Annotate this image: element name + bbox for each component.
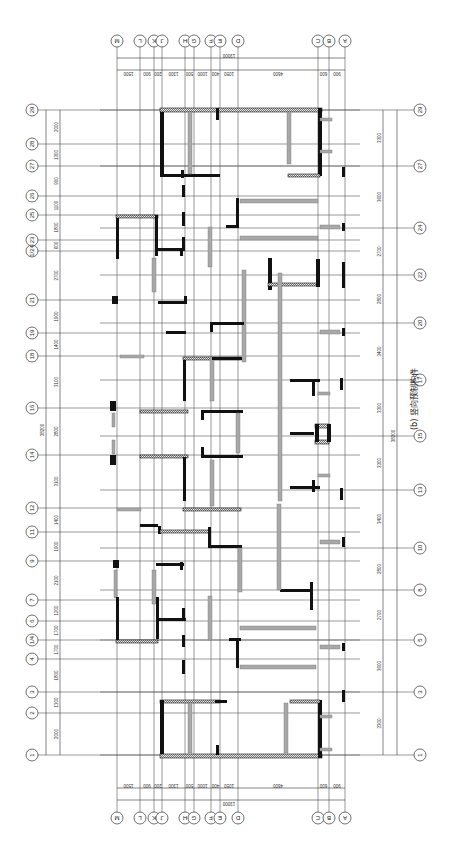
row-axis-bubble-left-label: 12 (29, 504, 35, 511)
cast-in-place-wall (182, 660, 185, 674)
right-dimension-label: 3300 (377, 718, 382, 729)
segment-dimension-label: 400 (211, 71, 219, 76)
cast-in-place-wall (315, 424, 319, 442)
floor-plan-drawing: 1300015009002001300500100040010504600600… (0, 0, 449, 858)
row-axis-bubble-right-label: 13 (417, 486, 423, 493)
row-axis-bubble-right-label: 15 (417, 432, 423, 439)
segment-dimension-label: 1050 (223, 71, 234, 76)
cast-in-place-wall (110, 455, 116, 465)
hatched-wall (116, 215, 158, 218)
column-axis-bubble-top-label: G (191, 38, 196, 44)
column-axis-bubble-top-label: J (161, 38, 164, 44)
cast-in-place-wall (236, 198, 239, 228)
cast-in-place-wall (182, 608, 185, 620)
precast-wall-component (320, 645, 340, 649)
segment-dimension-label: 1000 (197, 71, 208, 76)
total-dimension-label: 13000 (222, 53, 235, 58)
precast-wall-component (120, 355, 144, 358)
precast-wall-component (242, 270, 246, 362)
precast-wall-component (210, 357, 214, 401)
column-axis-bubble-bottom-label: K (152, 815, 156, 821)
right-dimension-label: 3600 (377, 660, 382, 671)
row-axis-bubble-right-label: 24 (417, 224, 423, 231)
cast-in-place-wall (342, 643, 345, 651)
precast-wall-component (320, 150, 332, 153)
cast-in-place-wall (229, 638, 241, 641)
left-dimension-label: 1700 (54, 644, 59, 655)
precast-wall-component (112, 440, 115, 454)
hatched-wall (288, 174, 320, 177)
segment-dimension-label: 4600 (272, 783, 283, 788)
structural-walls (110, 108, 345, 758)
row-axis-bubble-left-label: 21 (29, 296, 35, 303)
left-dimension-label: 1100 (54, 200, 59, 210)
row-axis-bubble-right-label: 27 (417, 162, 423, 169)
precast-wall-component (320, 540, 340, 544)
column-axis-bubble-top-label: H (183, 38, 187, 44)
hatched-wall (160, 754, 322, 758)
column-axis-bubble-top-label: A (343, 38, 347, 44)
cast-in-place-wall (181, 170, 184, 178)
row-axis-bubble-right-label: 20 (417, 319, 423, 326)
segment-dimension-label: 1050 (223, 783, 234, 788)
left-dimension-label: 1300 (54, 149, 59, 160)
column-axis-bubble-top-label: C (315, 38, 320, 44)
cast-in-place-wall (116, 597, 119, 642)
column-axis-bubble-bottom-label: F (209, 815, 213, 821)
column-axis-bubble-bottom-label: A (343, 815, 347, 821)
cast-in-place-wall (342, 262, 345, 288)
left-dimension-label: 1300 (54, 697, 59, 708)
precast-wall-component (320, 330, 340, 334)
precast-wall-component (112, 413, 115, 427)
precast-wall-component (320, 748, 332, 751)
row-gridlines (37, 110, 415, 755)
right-total-dimension-label: 38200 (391, 429, 396, 442)
cast-in-place-wall (340, 488, 343, 500)
cast-in-place-wall (158, 301, 186, 304)
right-dimension-label: 3400 (377, 513, 382, 524)
cast-in-place-wall (216, 745, 219, 755)
right-dimension-label: 2800 (377, 563, 382, 574)
row-axis-bubble-left-label: 26 (29, 192, 35, 199)
cast-in-place-wall (312, 380, 315, 396)
right-dimension-label: 3300 (377, 132, 382, 143)
precast-wall-component (208, 596, 212, 640)
cast-in-place-wall (312, 480, 315, 492)
right-dimension-label: 3600 (377, 191, 382, 202)
segment-dimension-label: 1300 (168, 71, 179, 76)
left-dimension-label: 1900 (54, 311, 59, 322)
cast-in-place-wall (215, 700, 227, 703)
left-dimension-label: 900 (54, 177, 59, 185)
precast-wall-component (287, 112, 291, 164)
cast-in-place-wall (236, 638, 239, 668)
left-dimension-label: 1700 (54, 625, 59, 636)
left-dimension-label: 1400 (54, 339, 59, 350)
right-dimension-label: 3400 (377, 346, 382, 357)
left-dimension-label: 3100 (54, 376, 59, 387)
segment-dimension-label: 900 (143, 71, 151, 76)
row-axis-bubble-right-label: 10 (417, 544, 423, 551)
cast-in-place-wall (160, 109, 164, 177)
cast-in-place-wall (216, 108, 219, 120)
row-axis-bubble-left-label: 18 (29, 352, 35, 359)
segment-dimension-label: 600 (319, 783, 327, 788)
hatched-wall (160, 530, 210, 533)
left-dimension-label: 1400 (54, 514, 59, 525)
cast-in-place-wall (208, 545, 242, 548)
right-dimension-label: 3300 (377, 402, 382, 413)
hatched-wall (140, 455, 188, 458)
row-axis-bubble-left-label: 23 (29, 236, 35, 243)
cast-in-place-wall (290, 379, 320, 382)
cast-in-place-wall (166, 331, 186, 334)
row-axis-bubble-right-label: 22 (417, 271, 423, 278)
precast-wall-component (188, 112, 192, 174)
column-axis-bubble-top-label: D (235, 38, 240, 44)
precast-wall-component (278, 273, 282, 501)
cast-in-place-wall (160, 700, 164, 757)
right-dimension-label: 3300 (377, 457, 382, 468)
column-axis-bubble-bottom-label: E (218, 815, 222, 821)
precast-wall-component (117, 508, 141, 511)
cast-in-place-wall (180, 562, 183, 570)
left-dimension-label: 600 (54, 241, 59, 249)
hatched-wall (116, 640, 158, 643)
